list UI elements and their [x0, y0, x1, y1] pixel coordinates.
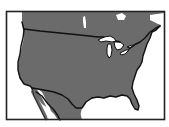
- map-figure: [0, 0, 169, 127]
- lake-michigan: [107, 44, 112, 58]
- us-map: [0, 0, 169, 127]
